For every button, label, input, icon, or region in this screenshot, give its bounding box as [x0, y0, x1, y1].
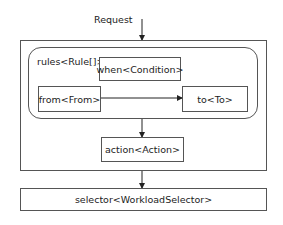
- request-label: Request: [94, 14, 133, 25]
- when-condition-node: when<Condition>: [99, 57, 181, 81]
- action-node: action<Action>: [101, 137, 184, 162]
- selector-node: selector<WorkloadSelector>: [20, 188, 267, 211]
- rules-label: rules<Rule[]>: [37, 56, 104, 67]
- to-node: to<To>: [182, 86, 248, 112]
- from-node: from<From>: [38, 86, 101, 112]
